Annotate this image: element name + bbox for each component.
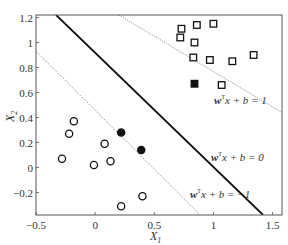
data-point-square	[250, 52, 257, 59]
y-tick-label: 1	[28, 37, 34, 49]
data-point-circle	[58, 155, 65, 162]
y-tick-label: 0.6	[19, 87, 33, 99]
data-point-circle	[90, 161, 97, 168]
y-axis-ticks: −0.200.20.40.60.811.2	[13, 12, 39, 199]
y-tick-label: 0	[28, 162, 34, 174]
data-point-circle	[66, 130, 73, 137]
y-tick-label: 1.2	[19, 12, 33, 24]
annotation-boundary: wTx + b = 0	[211, 151, 264, 163]
support-vector-square	[191, 80, 198, 87]
x-axis-label: X1	[149, 229, 161, 245]
x-tick-label: −0.5	[26, 219, 46, 231]
svm-chart: −0.500.511.5 −0.200.20.40.60.811.2 X1 X2…	[0, 0, 288, 245]
data-point-square	[194, 22, 201, 29]
data-point-circle	[70, 118, 77, 125]
data-point-circle	[118, 203, 125, 210]
y-tick-label: −0.2	[13, 187, 33, 199]
y-tick-label: 0.4	[19, 112, 33, 124]
decision-boundary-line	[56, 15, 263, 215]
data-point-circle	[101, 140, 108, 147]
y-tick-label: 0.2	[19, 137, 33, 149]
data-point-square	[190, 54, 197, 61]
y-axis-label: X2	[3, 111, 19, 123]
decision-lines	[36, 15, 282, 215]
data-point-square	[229, 58, 236, 65]
x-tick-label: 0	[92, 219, 98, 231]
annotation-margin-positive: wTx + b = 1	[214, 94, 267, 106]
data-point-circle	[107, 158, 114, 165]
data-point-square	[177, 34, 184, 41]
data-point-square	[218, 82, 225, 89]
data-point-square	[207, 57, 214, 64]
x-tick-label: 1.5	[266, 219, 280, 231]
support-vector-circle	[118, 129, 125, 136]
data-point-square	[191, 39, 198, 46]
support-vector-circle	[138, 146, 145, 153]
y-tick-label: 0.8	[19, 62, 33, 74]
data-point-square	[178, 25, 185, 32]
data-point-circle	[139, 193, 146, 200]
data-point-square	[210, 20, 217, 27]
x-tick-label: 1	[211, 219, 217, 231]
annotation-margin-negative: wTx + b = −1	[190, 188, 250, 200]
